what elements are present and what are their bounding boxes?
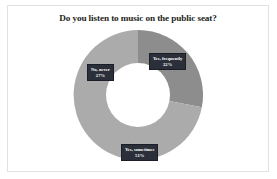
data-label-name: Yes, sometimes — [125, 147, 154, 153]
donut-chart — [71, 28, 205, 162]
data-label-percent: 27% — [91, 73, 110, 79]
data-label-percent: 22% — [153, 62, 182, 68]
data-label-yes-sometimes: Yes, sometimes 51% — [121, 144, 158, 161]
donut-svg — [71, 28, 205, 162]
chart-card: Do you listen to music on the public sea… — [7, 5, 269, 172]
donut-hole — [106, 63, 170, 127]
data-label-no-never: No, never 27% — [87, 64, 114, 81]
data-label-yes-frequently: Yes, frequently 22% — [149, 53, 186, 70]
data-label-name: No, never — [91, 67, 110, 73]
data-label-percent: 51% — [125, 153, 154, 159]
chart-title: Do you listen to music on the public sea… — [8, 13, 268, 23]
data-label-name: Yes, frequently — [153, 56, 182, 62]
